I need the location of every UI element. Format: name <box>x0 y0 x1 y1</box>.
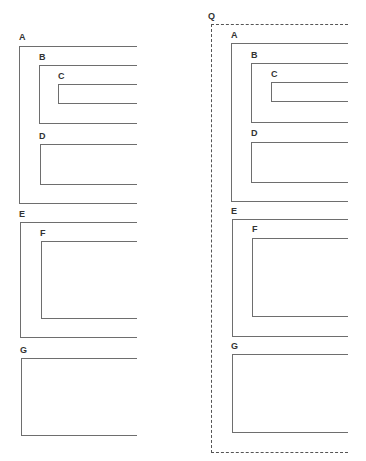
box-c-left <box>58 84 137 104</box>
box-g-left <box>21 358 137 436</box>
box-g-right <box>232 354 348 433</box>
label-c-right: C <box>271 70 278 79</box>
label-f-left: F <box>40 229 46 238</box>
label-g-right: G <box>231 342 238 351</box>
label-g-left: G <box>20 346 27 355</box>
box-f-right <box>252 238 348 317</box>
box-c-right <box>271 82 348 102</box>
label-b-right: B <box>251 51 258 60</box>
label-b-left: B <box>39 53 46 62</box>
label-d-right: D <box>251 129 258 138</box>
label-a-right: A <box>231 31 238 40</box>
box-d-right <box>251 142 348 183</box>
label-e-left: E <box>19 210 25 219</box>
label-c-left: C <box>58 72 65 81</box>
label-q: Q <box>208 12 215 21</box>
label-e-right: E <box>231 207 237 216</box>
label-a-left: A <box>19 33 26 42</box>
label-f-right: F <box>252 225 258 234</box>
box-d-left <box>40 144 137 185</box>
box-f-left <box>41 241 137 319</box>
label-d-left: D <box>39 132 46 141</box>
